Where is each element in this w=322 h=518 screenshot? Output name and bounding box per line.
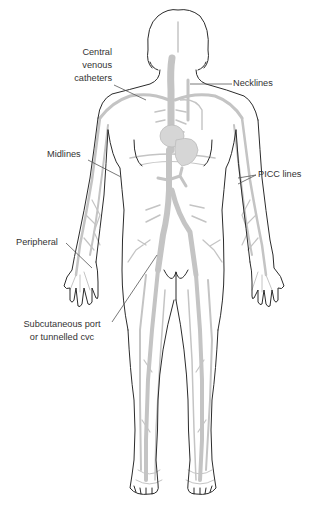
- label-central-venous-catheters: Central venous catheters: [58, 46, 112, 85]
- label-central-line1: Central: [58, 46, 112, 59]
- label-midlines: Midlines: [47, 148, 81, 161]
- vascular-access-diagram: Central venous catheters Necklines Midli…: [0, 0, 322, 518]
- leader-lines: [66, 84, 256, 322]
- label-central-line3: catheters: [58, 72, 112, 85]
- label-subcutaneous-line2: or tunnelled cvc: [12, 331, 112, 344]
- body-illustration: [0, 0, 322, 518]
- leader-subcutaneous: [112, 255, 157, 322]
- label-subcutaneous-port: Subcutaneous port or tunnelled cvc: [12, 318, 112, 344]
- label-necklines: Necklines: [233, 77, 273, 90]
- label-peripheral: Peripheral: [16, 236, 58, 249]
- label-picc-lines: PICC lines: [258, 168, 301, 181]
- venous-system: [70, 22, 272, 484]
- label-central-line2: venous: [58, 59, 112, 72]
- label-subcutaneous-line1: Subcutaneous port: [12, 318, 112, 331]
